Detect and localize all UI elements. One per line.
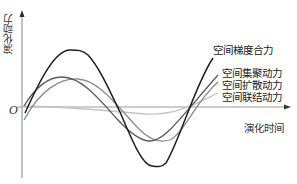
legend-label-linkage: 空间联结动力: [222, 92, 282, 103]
legend-label-agglomeration: 空间集聚动力: [222, 68, 282, 79]
y-axis-arrow-icon: [20, 10, 25, 17]
origin-label: O: [9, 104, 18, 117]
x-axis-label: 演化时间: [244, 120, 284, 135]
legend-label-diffusion: 空间扩散动力: [222, 80, 282, 91]
y-axis-label: 演化动力: [1, 14, 13, 54]
chart-root: 演化动力 O 演化时间 空间梯度合力 空间集聚动力 空间扩散动力 空间联结动力: [0, 0, 297, 184]
x-axis-arrow-icon: [284, 105, 291, 110]
legend-label-gradient-resultant: 空间梯度合力: [213, 45, 273, 56]
